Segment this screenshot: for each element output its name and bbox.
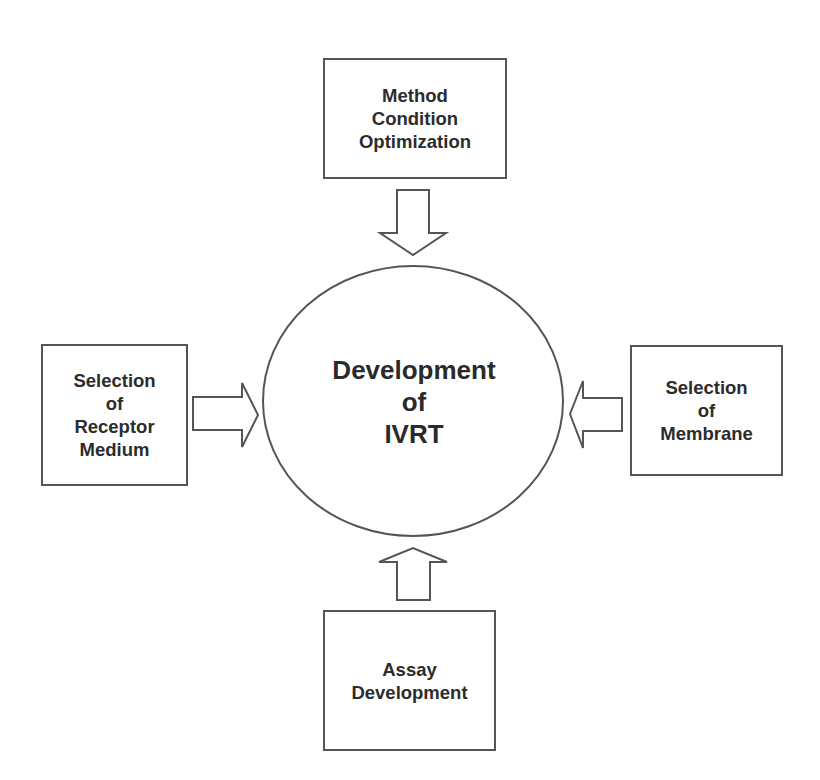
box-label: Selection of Receptor Medium	[73, 369, 155, 461]
box-label-line: Optimization	[359, 130, 471, 153]
arrow-right-icon	[193, 383, 258, 447]
box-label-line: Assay	[351, 658, 467, 681]
box-label-line: Development	[351, 681, 467, 704]
box-label: Assay Development	[351, 658, 467, 704]
arrow-up-icon	[379, 548, 447, 600]
membrane-box: Selection of Membrane	[630, 345, 783, 476]
box-label-line: of	[73, 392, 155, 415]
center-line: IVRT	[332, 418, 495, 450]
box-label-line: Medium	[73, 438, 155, 461]
box-label-line: Selection	[660, 376, 753, 399]
receptor-medium-box: Selection of Receptor Medium	[41, 344, 188, 486]
method-condition-optimization-box: Method Condition Optimization	[323, 58, 507, 179]
box-label: Method Condition Optimization	[359, 84, 471, 153]
box-label-line: Membrane	[660, 422, 753, 445]
center-line: of	[332, 386, 495, 418]
box-label: Selection of Membrane	[660, 376, 753, 445]
assay-development-box: Assay Development	[323, 610, 496, 751]
box-label-line: Method	[359, 84, 471, 107]
arrow-down-icon	[380, 190, 446, 255]
box-label-line: Selection	[73, 369, 155, 392]
arrow-left-icon	[570, 381, 622, 448]
center-node-label: Development of IVRT	[263, 266, 565, 538]
center-line: Development	[332, 354, 495, 386]
box-label-line: Condition	[359, 107, 471, 130]
box-label-line: Receptor	[73, 415, 155, 438]
box-label-line: of	[660, 399, 753, 422]
